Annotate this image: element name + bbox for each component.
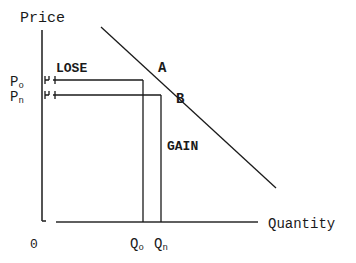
demand-diagram: Price Quantity 0 Po Pn Qo Qn A B LOSE GA… [0,0,356,263]
q-old-label: Qo [130,236,144,253]
q-new-label: Qn [154,236,168,253]
origin-label: 0 [30,237,38,252]
x-axis-label: Quantity [268,216,335,232]
demand-curve [101,27,276,188]
p-new-label: Pn [10,89,24,106]
point-b-label: B [176,91,185,107]
point-a-label: A [158,60,167,76]
axis-break-p-new [45,91,55,99]
y-axis-label: Price [20,10,65,27]
gain-region-label: GAIN [167,139,198,154]
lose-region-label: LOSE [56,61,87,76]
axis-break-p-old [45,76,55,84]
